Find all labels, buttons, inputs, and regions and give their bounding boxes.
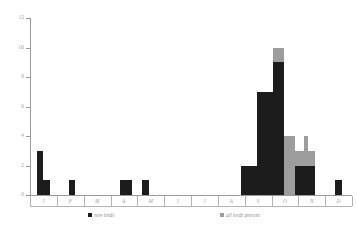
y-axis-label: 12 (0, 15, 24, 20)
x-axis-label-march: M (84, 197, 111, 205)
x-axis-label-september: S (245, 197, 272, 205)
bar-m-new-lords (142, 180, 149, 195)
bar-o-new-lords (273, 62, 284, 195)
bar-s-new-lords (241, 166, 257, 196)
y-axis-label: 0 (0, 192, 24, 197)
legend-swatch-icon (88, 213, 92, 217)
x-axis-label-october: O (272, 197, 299, 205)
bar-n-new-lords (295, 166, 315, 196)
bar-f-new-lords (69, 180, 75, 195)
x-axis-label-april: A (111, 197, 138, 205)
x-axis-label-december: D (325, 197, 352, 205)
y-axis-label: 6 (0, 104, 24, 109)
bar-a-new-lords (120, 180, 132, 195)
y-axis-label: 8 (0, 74, 24, 79)
y-axis-label: 4 (0, 133, 24, 138)
legend-item-all-lords-present: all lords present (220, 212, 260, 218)
x-axis-label-november: N (298, 197, 325, 205)
y-axis-label: 10 (0, 45, 24, 50)
x-axis-label-january: J (30, 197, 57, 205)
x-axis-label-july: J (191, 197, 218, 205)
x-axis-label-february: F (57, 197, 84, 205)
x-axis-label-june: J (164, 197, 191, 205)
x-axis-tick (352, 196, 353, 206)
chart-legend: new lords all lords present (30, 212, 352, 226)
x-axis-rule (30, 206, 352, 207)
bar-o-new-lords (257, 92, 273, 195)
legend-label: all lords present (226, 212, 260, 218)
bar-j-new-lords (43, 180, 50, 195)
x-axis-label-august: A (218, 197, 245, 205)
bar-chart: 024681012 JFMAMJJASOND new lords all lor… (0, 0, 357, 232)
y-axis-label: 2 (0, 163, 24, 168)
x-axis-label-may: M (137, 197, 164, 205)
legend-swatch-icon (220, 213, 224, 217)
legend-item-new-lords: new lords (88, 212, 114, 218)
bars-layer (30, 18, 352, 195)
bar-o-all-lords-present (284, 136, 295, 195)
bar-d-new-lords (335, 180, 342, 195)
legend-label: new lords (94, 212, 114, 218)
